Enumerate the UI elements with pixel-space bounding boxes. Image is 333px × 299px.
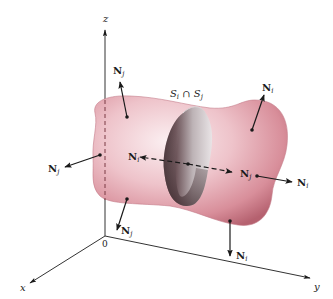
- y-axis-label: y: [313, 281, 320, 292]
- normal-label-top-right: Ni: [262, 82, 273, 95]
- intersection-label: Si ∩ Sj: [170, 88, 204, 101]
- normal-label-bottom-left: Nj: [121, 225, 133, 238]
- x-axis-label: x: [20, 282, 26, 293]
- origin-label: 0: [102, 239, 108, 249]
- normal-label-right: Ni: [297, 177, 308, 190]
- z-axis-label: z: [102, 13, 109, 24]
- normal-label-left: Nj: [48, 163, 60, 176]
- surface-diagram: z x y 0 Si ∩ Sj Nj Ni Nj Ni Nj Ni Nj Ni: [0, 0, 333, 299]
- y-axis: [105, 236, 310, 278]
- x-axis: [30, 236, 105, 283]
- normal-label-top-left: Nj: [113, 65, 125, 78]
- normal-label-bottom-right: Ni: [236, 250, 247, 263]
